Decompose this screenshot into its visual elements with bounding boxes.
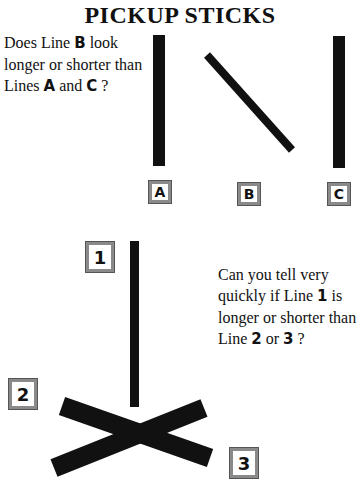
label-a: A	[148, 180, 172, 204]
label-b: B	[237, 182, 261, 206]
stick-b	[207, 55, 292, 150]
stick-a	[153, 35, 165, 166]
label-3: 3	[229, 447, 259, 479]
sticks-figure	[0, 0, 360, 489]
question-2: Can you tell very quickly if Line 1 is l…	[218, 264, 358, 350]
stick-c	[333, 36, 345, 168]
stick-1	[130, 241, 139, 407]
label-2: 2	[8, 378, 38, 410]
label-c: C	[327, 182, 351, 206]
label-1: 1	[85, 241, 115, 273]
